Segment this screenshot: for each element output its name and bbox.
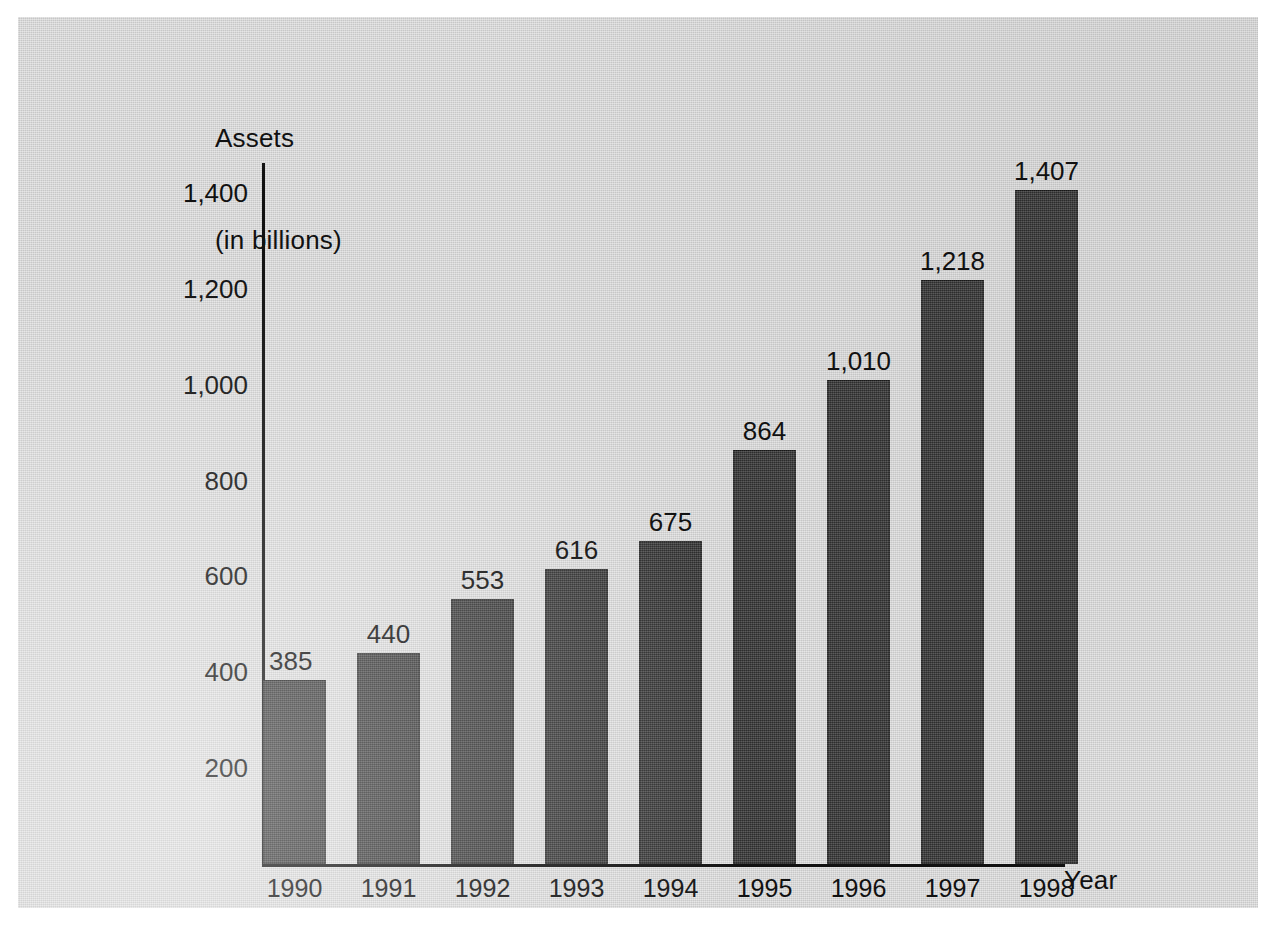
bar-group: 440 bbox=[357, 17, 420, 866]
y-tick-label: 400 bbox=[162, 659, 248, 685]
bar-group: 1,218 bbox=[921, 17, 984, 866]
bar-group: 616 bbox=[545, 17, 608, 866]
bar-chart: Assets (in billions) 2004006008001,0001,… bbox=[18, 17, 1258, 908]
bar-value-label: 675 bbox=[649, 509, 692, 535]
x-tick-label: 1995 bbox=[733, 873, 796, 903]
bar-value-label: 616 bbox=[555, 537, 598, 563]
bar-group: 675 bbox=[639, 17, 702, 866]
y-tick-label: 200 bbox=[162, 755, 248, 781]
bar-group: 385 bbox=[263, 17, 326, 866]
bar-value-label: 1,407 bbox=[1014, 158, 1079, 184]
bar-series-assets: 3851990440199155319926161993675199486419… bbox=[263, 17, 1065, 866]
y-tick-label: 600 bbox=[162, 563, 248, 589]
x-tick-label: 1992 bbox=[451, 873, 514, 903]
y-tick-label: 1,000 bbox=[162, 372, 248, 398]
bar-value-label: 440 bbox=[367, 621, 410, 647]
bar bbox=[1015, 190, 1078, 864]
bar bbox=[263, 680, 326, 864]
bar-group: 864 bbox=[733, 17, 796, 866]
bar-value-label: 1,218 bbox=[920, 248, 985, 274]
bar bbox=[451, 599, 514, 864]
x-tick-label: 1990 bbox=[263, 873, 326, 903]
bar-group: 1,010 bbox=[827, 17, 890, 866]
scanned-figure-panel: Assets (in billions) 2004006008001,0001,… bbox=[18, 17, 1258, 908]
x-tick-label: 1991 bbox=[357, 873, 420, 903]
bar bbox=[357, 653, 420, 864]
y-axis-tick-labels: 2004006008001,0001,2001,400 bbox=[162, 17, 248, 908]
bar bbox=[827, 380, 890, 864]
bar-group: 1,407 bbox=[1015, 17, 1078, 866]
x-axis-title: Year bbox=[1064, 864, 1117, 896]
x-tick-label: 1994 bbox=[639, 873, 702, 903]
bar-value-label: 553 bbox=[461, 567, 504, 593]
bar-value-label: 864 bbox=[743, 418, 786, 444]
x-tick-label: 1997 bbox=[921, 873, 984, 903]
y-tick-label: 1,400 bbox=[162, 180, 248, 206]
x-tick-label: 1996 bbox=[827, 873, 890, 903]
bar bbox=[639, 541, 702, 864]
bar bbox=[921, 280, 984, 864]
y-tick-label: 800 bbox=[162, 468, 248, 494]
x-tick-label: 1993 bbox=[545, 873, 608, 903]
bar bbox=[545, 569, 608, 864]
bar bbox=[733, 450, 796, 864]
bar-value-label: 1,010 bbox=[826, 348, 891, 374]
y-tick-label: 1,200 bbox=[162, 276, 248, 302]
bar-value-label: 385 bbox=[269, 648, 312, 674]
bar-group: 553 bbox=[451, 17, 514, 866]
